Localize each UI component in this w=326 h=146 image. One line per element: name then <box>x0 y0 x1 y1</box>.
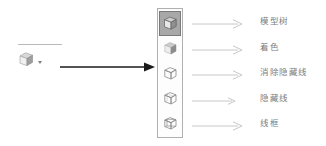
label-no-hidden-lines: 消除隐藏线 <box>260 67 308 77</box>
cube-shaded-icon <box>162 40 179 57</box>
cube-no-hidden-lines-icon <box>162 65 179 82</box>
callout-arrow-wireframe <box>192 117 244 129</box>
diagram-canvas: 模型树 着色 消除隐藏线 隐藏线 线框 <box>0 0 326 146</box>
cube-model-tree-icon <box>162 15 179 32</box>
display-style-flyout-toolbar[interactable] <box>157 8 183 138</box>
cube-wireframe-icon <box>162 115 179 132</box>
toolbar-item-wireframe[interactable] <box>159 111 181 136</box>
cube-shaded-icon <box>18 51 35 68</box>
chevron-down-icon[interactable] <box>38 61 42 64</box>
callout-arrow-shaded <box>192 41 244 53</box>
toolbar-item-no-hidden-lines[interactable] <box>159 61 181 86</box>
source-toolbar-group <box>18 44 66 68</box>
cube-hidden-lines-icon <box>162 90 179 107</box>
callout-arrow-no-hidden-lines <box>192 66 244 78</box>
callout-arrow-model-tree <box>192 15 244 27</box>
toolbar-item-model-tree[interactable] <box>159 11 181 36</box>
label-hidden-lines: 隐藏线 <box>260 93 289 103</box>
pointer-arrow <box>60 58 155 70</box>
label-shaded: 着色 <box>260 42 279 52</box>
display-style-toolbar-button[interactable] <box>18 51 66 68</box>
toolbar-item-hidden-lines[interactable] <box>159 86 181 111</box>
toolbar-item-shaded[interactable] <box>159 36 181 61</box>
label-wireframe: 线框 <box>260 118 279 128</box>
callout-arrow-hidden-lines <box>192 92 244 104</box>
label-model-tree: 模型树 <box>260 16 289 26</box>
toolbar-separator <box>18 44 62 45</box>
